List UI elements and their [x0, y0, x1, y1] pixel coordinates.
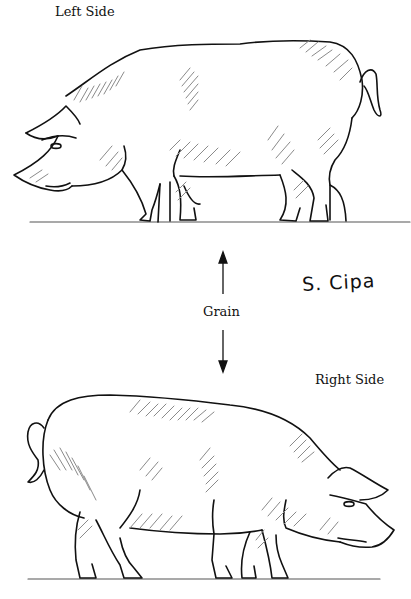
pig-right-side [28, 395, 394, 579]
arrow-down-icon [219, 361, 227, 372]
right-side-label: Right Side [315, 372, 384, 387]
left-side-label: Left Side [55, 4, 115, 19]
arrow-up-icon [219, 252, 227, 263]
grain-label: Grain [203, 304, 240, 319]
illustration-canvas [0, 0, 411, 599]
pig-left-side [14, 40, 410, 222]
artist-signature: S. Cipa [301, 269, 375, 295]
